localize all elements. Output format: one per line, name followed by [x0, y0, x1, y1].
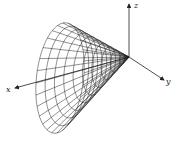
cone-ruling: [62, 57, 129, 131]
x-axis-label: x: [6, 85, 11, 94]
cone-wireframe: [36, 23, 129, 133]
y-axis-label: y: [165, 77, 171, 86]
z-axis-label: z: [133, 1, 139, 10]
x-axis: [15, 57, 129, 88]
cone-ruling: [52, 57, 129, 133]
cone-ruling: [36, 57, 129, 95]
cone-ruling: [77, 32, 129, 57]
cone-diagram: z y x: [0, 0, 172, 141]
y-axis: [129, 57, 164, 80]
